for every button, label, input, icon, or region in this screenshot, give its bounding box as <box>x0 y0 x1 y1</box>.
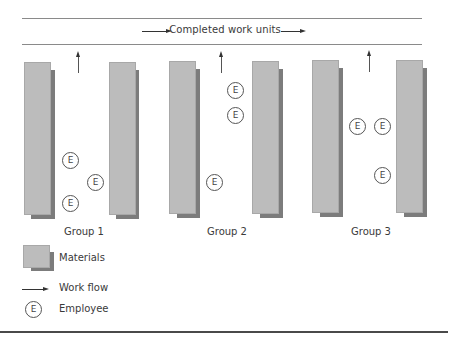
material-block <box>169 61 196 214</box>
header-top-line <box>22 18 422 19</box>
header-title-text: Completed work units <box>169 24 281 35</box>
employee-icon: E <box>227 82 244 99</box>
legend-material-icon <box>23 245 50 268</box>
legend-workflow-arrow-icon <box>22 289 44 290</box>
material-block <box>252 61 279 214</box>
header-right-arrow-icon <box>281 31 301 32</box>
group-label: Group 2 <box>187 226 267 237</box>
employee-icon: E <box>227 107 244 124</box>
employee-icon: E <box>374 118 391 135</box>
workflow-up-arrow-icon <box>369 55 370 72</box>
bottom-divider <box>0 331 448 333</box>
material-block <box>24 62 51 215</box>
workflow-up-arrow-icon <box>221 56 222 73</box>
employee-icon: E <box>87 174 104 191</box>
employee-icon: E <box>349 118 366 135</box>
employee-icon: E <box>62 152 79 169</box>
header-title: Completed work units <box>0 24 450 35</box>
material-block <box>109 62 136 215</box>
legend-workflow-label: Work flow <box>59 282 108 293</box>
legend-employee-icon: E <box>25 301 42 318</box>
material-block <box>396 60 423 213</box>
group-label: Group 1 <box>44 226 124 237</box>
group-label: Group 3 <box>331 226 411 237</box>
legend-materials-label: Materials <box>59 252 105 263</box>
material-block <box>312 60 339 213</box>
workflow-up-arrow-icon <box>78 56 79 73</box>
header-bottom-line <box>22 44 422 45</box>
employee-icon: E <box>62 195 79 212</box>
employee-icon: E <box>206 174 223 191</box>
employee-icon: E <box>374 167 391 184</box>
legend-employee-label: Employee <box>59 303 109 314</box>
